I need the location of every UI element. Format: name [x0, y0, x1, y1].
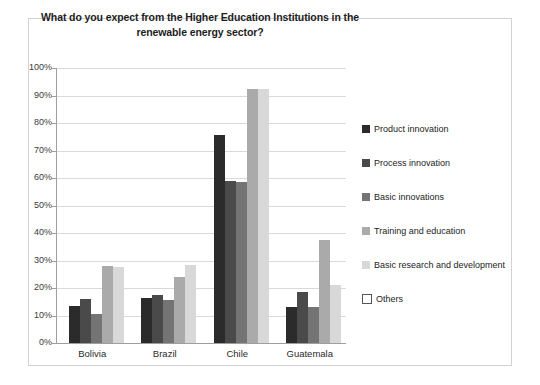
bar — [308, 307, 319, 343]
legend-swatch-icon — [362, 227, 370, 235]
chart-title: What do you expect from the Higher Educa… — [30, 10, 370, 40]
y-axis-tick-label: 20% — [12, 282, 52, 292]
legend-swatch-icon — [362, 261, 370, 269]
bar — [319, 240, 330, 343]
y-axis-tick-label: 30% — [12, 255, 52, 265]
bar-group-chile — [214, 68, 269, 343]
bar — [113, 267, 124, 343]
legend-item-basic-innovations[interactable]: Basic innovations — [362, 180, 512, 214]
x-axis-label-guatemala: Guatemala — [265, 348, 355, 359]
bar — [141, 298, 152, 343]
bar — [102, 266, 113, 343]
x-axis-line — [56, 343, 346, 344]
legend-item-product-innovation[interactable]: Product innovation — [362, 112, 512, 146]
y-axis-tick-label: 0% — [12, 337, 52, 347]
bar-group-guatemala — [286, 68, 341, 343]
chart-legend: Product innovationProcess innovationBasi… — [362, 112, 512, 316]
bar — [247, 89, 258, 343]
legend-label: Product innovation — [374, 124, 449, 134]
y-axis-tick-label: 90% — [12, 90, 52, 100]
legend-swatch-icon — [362, 125, 370, 133]
legend-item-basic-research-and-development[interactable]: Basic research and development — [362, 248, 512, 282]
bar — [152, 295, 163, 343]
bar — [297, 292, 308, 343]
y-axis-tick-label: 60% — [12, 172, 52, 182]
y-axis-tick-label: 80% — [12, 117, 52, 127]
bar-group-brazil — [141, 68, 196, 343]
bar — [80, 299, 91, 343]
legend-swatch-icon — [362, 294, 372, 304]
bar — [286, 307, 297, 343]
bar — [174, 277, 185, 343]
y-axis-tick-label: 10% — [12, 310, 52, 320]
legend-item-process-innovation[interactable]: Process innovation — [362, 146, 512, 180]
legend-item-others[interactable]: Others — [362, 282, 512, 316]
y-axis-tick-label: 50% — [12, 200, 52, 210]
bar — [185, 265, 196, 343]
legend-item-training-and-education[interactable]: Training and education — [362, 214, 512, 248]
plot-area — [56, 68, 346, 343]
legend-swatch-icon — [362, 159, 370, 167]
legend-label: Training and education — [374, 226, 465, 236]
y-axis-tick-label: 70% — [12, 145, 52, 155]
bar — [163, 300, 174, 343]
bar — [214, 135, 225, 343]
bar — [225, 181, 236, 343]
bar — [236, 182, 247, 343]
bar — [258, 89, 269, 343]
y-axis-tick-label: 100% — [12, 62, 52, 72]
legend-label: Basic research and development — [374, 260, 505, 270]
bar — [91, 314, 102, 343]
legend-label: Basic innovations — [374, 192, 444, 202]
bar — [69, 306, 80, 343]
legend-swatch-icon — [362, 193, 370, 201]
legend-label: Process innovation — [374, 158, 450, 168]
y-axis-labels: 100%90%80%70%60%50%40%30%20%10%0% — [8, 68, 52, 343]
bar-group-bolivia — [69, 68, 124, 343]
legend-label: Others — [376, 294, 403, 304]
y-axis-tick-label: 40% — [12, 227, 52, 237]
bar — [330, 285, 341, 343]
